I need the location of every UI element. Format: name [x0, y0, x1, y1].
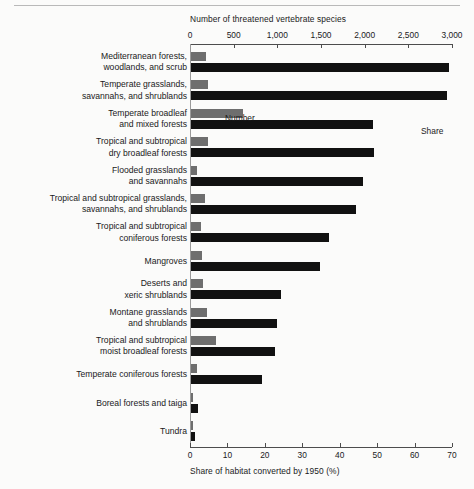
category-label: Temperate coniferous forests	[0, 369, 187, 380]
category-label: Tropical and subtropicalmoist broadleaf …	[0, 335, 187, 358]
bar-share	[191, 262, 320, 271]
bar-share	[191, 375, 262, 384]
chart-row: Deserts andxeric shrublands	[0, 279, 474, 307]
bottom-axis-tick	[227, 443, 228, 447]
legend-item-share: Share	[421, 126, 443, 136]
chart-row: Temperate coniferous forests	[0, 364, 474, 392]
chart-row: Mangroves	[0, 251, 474, 279]
bar-share	[191, 319, 277, 328]
category-label-line1: Tropical and subtropical	[0, 221, 187, 232]
category-label: Deserts andxeric shrublands	[0, 278, 187, 301]
category-label-line1: Mangroves	[0, 256, 187, 267]
bar-share	[191, 290, 281, 299]
chart-row: Tropical and subtropicaldry broadleaf fo…	[0, 137, 474, 165]
bar-share	[191, 148, 374, 157]
category-label-line1: Deserts and	[0, 278, 187, 289]
category-label-line1: Tropical and subtropical grasslands,	[0, 193, 187, 204]
top-axis-tick-label: 500	[227, 30, 241, 40]
bar-number	[191, 279, 203, 288]
chart-row: Tropical and subtropicalmoist broadleaf …	[0, 336, 474, 364]
category-label-line2: and mixed forests	[0, 119, 187, 130]
bottom-axis-tick	[302, 443, 303, 447]
category-label-line2: woodlands, and scrub	[0, 62, 187, 73]
top-axis-title: Number of threatened vertebrate species	[190, 14, 346, 24]
category-label: Mediterranean forests,woodlands, and scr…	[0, 51, 187, 74]
bar-share	[191, 432, 195, 441]
chart-row: Tropical and subtropical grasslands,sava…	[0, 194, 474, 222]
category-label-line1: Boreal forests and taiga	[0, 398, 187, 409]
bar-number	[191, 308, 207, 317]
category-label: Tropical and subtropicalconiferous fores…	[0, 221, 187, 244]
chart-row: Tropical and subtropicalconiferous fores…	[0, 222, 474, 250]
bottom-axis-tick	[265, 443, 266, 447]
category-label: Flooded grasslandsand savannahs	[0, 165, 187, 188]
category-label: Temperate grasslands,savannahs, and shru…	[0, 79, 187, 102]
chart-figure: Number of threatened vertebrate species …	[0, 0, 474, 489]
bottom-axis-tick-label: 30	[298, 450, 307, 460]
chart-row: Montane grasslandsand shrublands	[0, 308, 474, 336]
bar-number	[191, 336, 216, 345]
category-label: Montane grasslandsand shrublands	[0, 307, 187, 330]
bar-number	[191, 194, 205, 203]
category-label: Boreal forests and taiga	[0, 398, 187, 409]
bar-number	[191, 80, 208, 89]
category-label-line1: Temperate coniferous forests	[0, 369, 187, 380]
category-label-line2: dry broadleaf forests	[0, 148, 187, 159]
bottom-axis-tick-label: 60	[410, 450, 419, 460]
bar-number	[191, 166, 197, 175]
bottom-axis-tick	[452, 443, 453, 447]
bottom-axis-tick	[340, 443, 341, 447]
category-label-line1: Tropical and subtropical	[0, 136, 187, 147]
top-axis-tick-label: 2,500	[398, 30, 419, 40]
bar-number	[191, 137, 208, 146]
bar-share	[191, 63, 449, 72]
bottom-axis-tick	[377, 443, 378, 447]
bottom-axis-tick-label: 20	[260, 450, 269, 460]
bar-share	[191, 177, 363, 186]
bar-share	[191, 120, 373, 129]
bottom-axis-tick-label: 50	[372, 450, 381, 460]
top-axis-tick-label: 2,000	[354, 30, 375, 40]
bottom-axis-tick-label: 10	[223, 450, 232, 460]
bottom-axis-line	[190, 447, 452, 448]
bar-share	[191, 404, 198, 413]
bar-share	[191, 233, 329, 242]
category-label-line2: xeric shrublands	[0, 290, 187, 301]
chart-row: Temperate grasslands,savannahs, and shru…	[0, 80, 474, 108]
bar-share	[191, 347, 275, 356]
category-label-line2: moist broadleaf forests	[0, 346, 187, 357]
top-axis-tick-label: 1,000	[267, 30, 288, 40]
category-label: Temperate broadleafand mixed forests	[0, 108, 187, 131]
top-axis-tick-label: 3,000	[442, 30, 463, 40]
category-label-line1: Montane grasslands	[0, 307, 187, 318]
bar-share	[191, 205, 356, 214]
bar-number	[191, 421, 193, 430]
bar-number	[191, 393, 193, 402]
category-label-line2: and shrublands	[0, 318, 187, 329]
bar-share	[191, 91, 447, 100]
category-label-line2: savannahs, and shrublands	[0, 91, 187, 102]
bottom-axis-tick-label: 70	[447, 450, 456, 460]
bottom-axis-tick	[190, 443, 191, 447]
category-label-line2: savannahs, and shrublands	[0, 204, 187, 215]
chart-row: Mediterranean forests,woodlands, and scr…	[0, 52, 474, 80]
category-label-line1: Mediterranean forests,	[0, 51, 187, 62]
bottom-axis-tick	[415, 443, 416, 447]
category-label-line1: Tundra	[0, 426, 187, 437]
bottom-axis-tick-label: 40	[335, 450, 344, 460]
category-label: Tropical and subtropical grasslands,sava…	[0, 193, 187, 216]
category-label-line1: Temperate broadleaf	[0, 108, 187, 119]
category-label: Mangroves	[0, 256, 187, 267]
category-label-line1: Tropical and subtropical	[0, 335, 187, 346]
bottom-axis-tick-label: 0	[188, 450, 193, 460]
chart-row: Flooded grasslandsand savannahs	[0, 166, 474, 194]
bottom-axis-title: Share of habitat converted by 1950 (%)	[190, 466, 340, 476]
bar-number	[191, 222, 201, 231]
category-label-line1: Flooded grasslands	[0, 165, 187, 176]
category-label-line2: and savannahs	[0, 176, 187, 187]
chart-row: Tundra	[0, 421, 474, 449]
top-axis-tick-label: 0	[188, 30, 193, 40]
bar-number	[191, 364, 197, 373]
category-label-line1: Temperate grasslands,	[0, 79, 187, 90]
category-label: Tundra	[0, 426, 187, 437]
